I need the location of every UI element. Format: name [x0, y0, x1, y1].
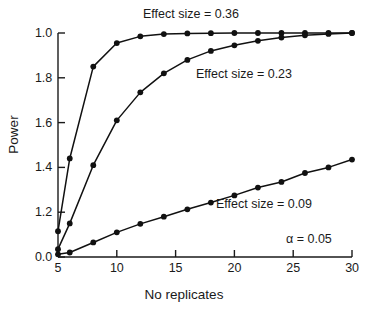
annotation-effect-size-009: Effect size = 0.09 [216, 197, 312, 211]
xtick-label-0: 5 [43, 261, 73, 275]
data-point [208, 48, 214, 54]
data-point [90, 162, 96, 168]
data-point [279, 35, 285, 41]
xtick-label-2: 15 [161, 261, 191, 275]
data-point [67, 250, 73, 256]
ytick-label-3: 1.4 [18, 160, 52, 174]
data-point [232, 30, 238, 36]
xtick-label-5: 30 [337, 261, 367, 275]
data-point [184, 206, 190, 212]
data-point [349, 30, 355, 36]
data-point [255, 38, 261, 44]
data-point [137, 33, 143, 39]
ytick-label-0: 1.0 [18, 26, 52, 40]
data-point [55, 251, 61, 257]
data-point [255, 185, 261, 191]
annotation-effect-size-023: Effect size = 0.23 [196, 67, 292, 81]
series-line [58, 33, 352, 249]
data-point [161, 31, 167, 37]
data-point [208, 30, 214, 36]
annotation-alpha-level: α = 0.05 [286, 232, 332, 246]
ytick-label-1: 1.8 [18, 71, 52, 85]
data-point [137, 221, 143, 227]
data-point [114, 229, 120, 235]
data-point [326, 165, 332, 171]
series-0-23 [55, 30, 355, 252]
xtick-label-1: 10 [102, 261, 132, 275]
data-point [184, 57, 190, 63]
data-point [90, 64, 96, 70]
data-point [279, 179, 285, 185]
ytick-label-4: 1.2 [18, 205, 52, 219]
data-point [302, 32, 308, 38]
data-point [55, 246, 61, 252]
data-point [137, 89, 143, 95]
data-point [161, 70, 167, 76]
ytick-label-2: 1.6 [18, 116, 52, 130]
data-point [349, 157, 355, 163]
data-point [67, 156, 73, 162]
data-point [114, 117, 120, 123]
data-point [90, 240, 96, 246]
x-axis-title: No replicates [0, 287, 368, 302]
data-point [184, 31, 190, 37]
xtick-label-3: 20 [219, 261, 249, 275]
xtick-label-4: 25 [278, 261, 308, 275]
data-point [326, 31, 332, 37]
data-point [302, 170, 308, 176]
y-axis-title: Power [6, 100, 21, 170]
data-point [255, 30, 261, 36]
data-point [114, 40, 120, 46]
annotation-effect-size-036: Effect size = 0.36 [143, 7, 239, 21]
data-point [161, 214, 167, 220]
data-point [67, 221, 73, 227]
series-layer [55, 30, 355, 257]
x-axis-ticks [58, 250, 352, 257]
data-point [232, 42, 238, 48]
data-point [55, 228, 61, 234]
power-curve-figure: 1.0 1.8 1.6 1.4 1.2 0.0 5 10 15 20 25 30… [0, 0, 368, 313]
data-point [208, 200, 214, 206]
